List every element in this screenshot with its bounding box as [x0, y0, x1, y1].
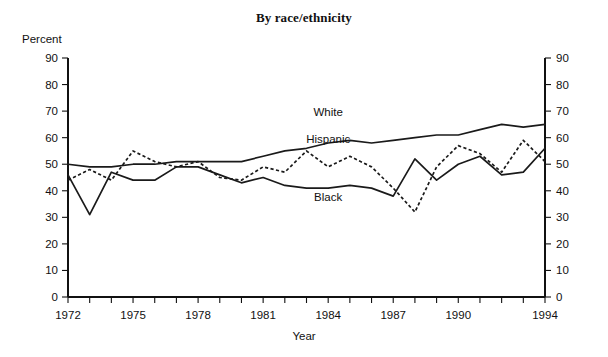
x-tick-label: 1975 — [120, 309, 146, 321]
series-label-hispanic: Hispanic — [306, 133, 350, 145]
y-tick-label-left: 30 — [45, 211, 58, 223]
y-tick-label-right: 90 — [556, 52, 569, 64]
y-tick-label-left: 80 — [45, 79, 58, 91]
y-tick-label-left: 90 — [45, 52, 58, 64]
y-tick-label-right: 0 — [556, 291, 562, 303]
y-tick-label-right: 40 — [556, 185, 569, 197]
y-tick-label-left: 20 — [45, 238, 58, 250]
x-tick-label: 1981 — [250, 309, 276, 321]
y-tick-label-left: 40 — [45, 185, 58, 197]
x-tick-label: 1978 — [185, 309, 211, 321]
y-tick-label-right: 80 — [556, 79, 569, 91]
y-tick-label-left: 70 — [45, 105, 58, 117]
y-tick-label-right: 60 — [556, 132, 569, 144]
y-tick-label-left: 0 — [52, 291, 58, 303]
y-tick-label-right: 20 — [556, 238, 569, 250]
y-tick-label-left: 10 — [45, 264, 58, 276]
chart-container: By race/ethnicity Percent Year 010203040… — [0, 0, 608, 357]
series-label-black: Black — [314, 191, 342, 203]
x-tick-label: 1972 — [55, 309, 81, 321]
x-tick-label: 1994 — [532, 309, 558, 321]
y-tick-label-left: 50 — [45, 158, 58, 170]
plot-area: 0102030405060708090 0102030405060708090 … — [0, 0, 608, 357]
series-label-white: White — [313, 106, 342, 118]
series-line-white — [68, 124, 545, 166]
y-tick-label-right: 10 — [556, 264, 569, 276]
y-tick-label-right: 30 — [556, 211, 569, 223]
y-tick-label-left: 60 — [45, 132, 58, 144]
x-tick-label: 1984 — [315, 309, 341, 321]
y-axis-left-ticks: 0102030405060708090 — [45, 52, 68, 303]
series-line-black — [68, 148, 545, 214]
y-tick-label-right: 50 — [556, 158, 569, 170]
y-axis-right-ticks: 0102030405060708090 — [545, 52, 569, 303]
x-tick-label: 1990 — [445, 309, 471, 321]
x-tick-label: 1987 — [380, 309, 406, 321]
series-line-hispanic — [68, 140, 545, 212]
x-axis-ticks: 19721975197819811984198719901994 — [55, 297, 558, 321]
y-tick-label-right: 70 — [556, 105, 569, 117]
